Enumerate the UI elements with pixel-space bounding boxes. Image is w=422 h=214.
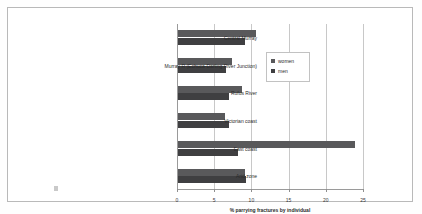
legend-item-women: women bbox=[271, 58, 309, 64]
plot-wrapper: 0510152025% parrying fractures by indivi… bbox=[22, 20, 416, 206]
category-label: Murray R (Echuca-Darling River Junction) bbox=[164, 63, 257, 69]
x-axis-tick-label: 25 bbox=[360, 197, 366, 203]
gridline bbox=[363, 24, 364, 190]
category-label: Arid zone bbox=[236, 173, 257, 179]
plot-area: 0510152025% parrying fractures by indivi… bbox=[177, 24, 363, 190]
category-label: East coast bbox=[234, 146, 257, 152]
y-axis-line bbox=[177, 24, 178, 190]
x-axis-tick bbox=[289, 189, 290, 192]
gridline bbox=[251, 24, 252, 190]
x-axis-tick bbox=[363, 189, 364, 192]
bar-men bbox=[178, 121, 229, 128]
legend-item-men: men bbox=[271, 68, 309, 74]
bar-men bbox=[178, 93, 229, 100]
chart-frame: 0510152025% parrying fractures by indivi… bbox=[7, 7, 413, 202]
x-axis-tick-label: 0 bbox=[176, 197, 179, 203]
gridline bbox=[214, 24, 215, 190]
x-axis-tick bbox=[326, 189, 327, 192]
x-axis-line bbox=[177, 189, 363, 190]
x-axis-tick-label: 10 bbox=[249, 197, 255, 203]
corner-artifact-icon bbox=[54, 186, 58, 191]
chart-canvas: 0510152025% parrying fractures by indivi… bbox=[0, 0, 422, 214]
bar-women bbox=[178, 141, 355, 148]
category-label: Victorian coast bbox=[224, 118, 257, 124]
legend-label-women: women bbox=[278, 58, 294, 64]
gridline bbox=[289, 24, 290, 190]
category-label: Rufus River bbox=[231, 90, 257, 96]
x-axis-tick bbox=[251, 189, 252, 192]
legend-swatch-women-icon bbox=[271, 59, 275, 63]
legend-swatch-men-icon bbox=[271, 69, 275, 73]
bar-men bbox=[178, 149, 238, 156]
x-axis-tick-label: 15 bbox=[286, 197, 292, 203]
x-axis-tick-label: 20 bbox=[323, 197, 329, 203]
legend: women men bbox=[266, 52, 310, 82]
gridline bbox=[326, 24, 327, 190]
legend-label-men: men bbox=[278, 68, 288, 74]
x-axis-tick bbox=[177, 189, 178, 192]
x-axis-title: % parrying fractures by individual bbox=[177, 207, 363, 213]
x-axis-tick-label: 5 bbox=[213, 197, 216, 203]
category-label: Central Murray bbox=[224, 35, 257, 41]
bar-women bbox=[178, 113, 225, 120]
x-axis-tick bbox=[214, 189, 215, 192]
